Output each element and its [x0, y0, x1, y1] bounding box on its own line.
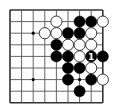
- white-stone: [51, 16, 62, 27]
- white-stone: [86, 62, 97, 73]
- star-point: [32, 32, 35, 35]
- black-stone: [74, 28, 85, 39]
- white-stone: [97, 74, 108, 85]
- go-board: 1: [0, 0, 116, 112]
- black-stone: [86, 74, 97, 85]
- black-stone: [97, 51, 108, 62]
- black-stone: [51, 39, 62, 50]
- black-stone: [62, 74, 73, 85]
- white-stone: [51, 28, 62, 39]
- black-stone: [86, 16, 97, 27]
- black-stone: [74, 86, 85, 97]
- white-stone: [74, 39, 85, 50]
- black-stone: [62, 28, 73, 39]
- black-stone: [62, 62, 73, 73]
- star-point: [78, 78, 81, 81]
- white-stone: [74, 51, 85, 62]
- move-number-label: 1: [88, 52, 94, 62]
- black-stone: 1: [86, 51, 97, 62]
- black-stone: [62, 51, 73, 62]
- white-stone: [97, 16, 108, 27]
- black-stone: [74, 62, 85, 73]
- black-stone: [74, 16, 85, 27]
- white-stone: [62, 39, 73, 50]
- white-stone: [39, 28, 50, 39]
- black-stone: [51, 51, 62, 62]
- star-point: [32, 78, 35, 81]
- white-stone: [86, 28, 97, 39]
- white-stone: [86, 39, 97, 50]
